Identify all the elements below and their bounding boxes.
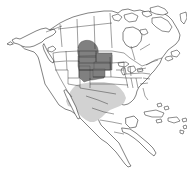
trinidad xyxy=(180,130,184,134)
bahamas-1 xyxy=(157,103,162,107)
puerto-rico xyxy=(182,118,187,122)
lesser-antilles xyxy=(183,125,187,129)
lake-ontario xyxy=(137,68,143,72)
north-america-map xyxy=(0,0,187,172)
bahamas-2 xyxy=(164,106,169,110)
core-range-dakotas xyxy=(96,53,112,63)
jamaica xyxy=(156,119,162,123)
distribution-map-figure xyxy=(0,0,187,172)
